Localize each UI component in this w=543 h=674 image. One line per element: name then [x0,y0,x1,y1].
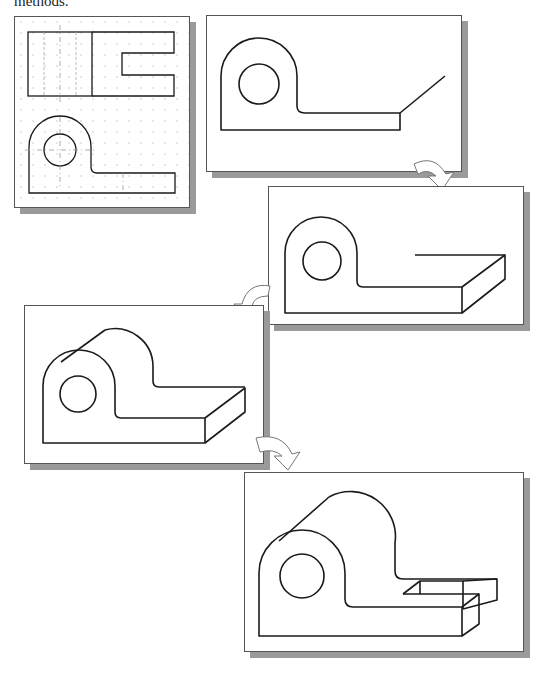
panel-step-3 [268,186,524,325]
orthographic-drawing [15,17,189,207]
panel-step-5 [244,472,524,652]
step-3-drawing [269,187,523,324]
panel-step-4 [24,305,264,464]
step-4-drawing [25,306,263,463]
step-5-drawing [245,473,523,651]
caption-text: methods. [14,0,69,10]
step-2-drawing [207,16,461,171]
panel-orthographic [14,16,190,208]
curved-arrow-icon [254,430,306,474]
panel-step-2 [206,15,462,172]
